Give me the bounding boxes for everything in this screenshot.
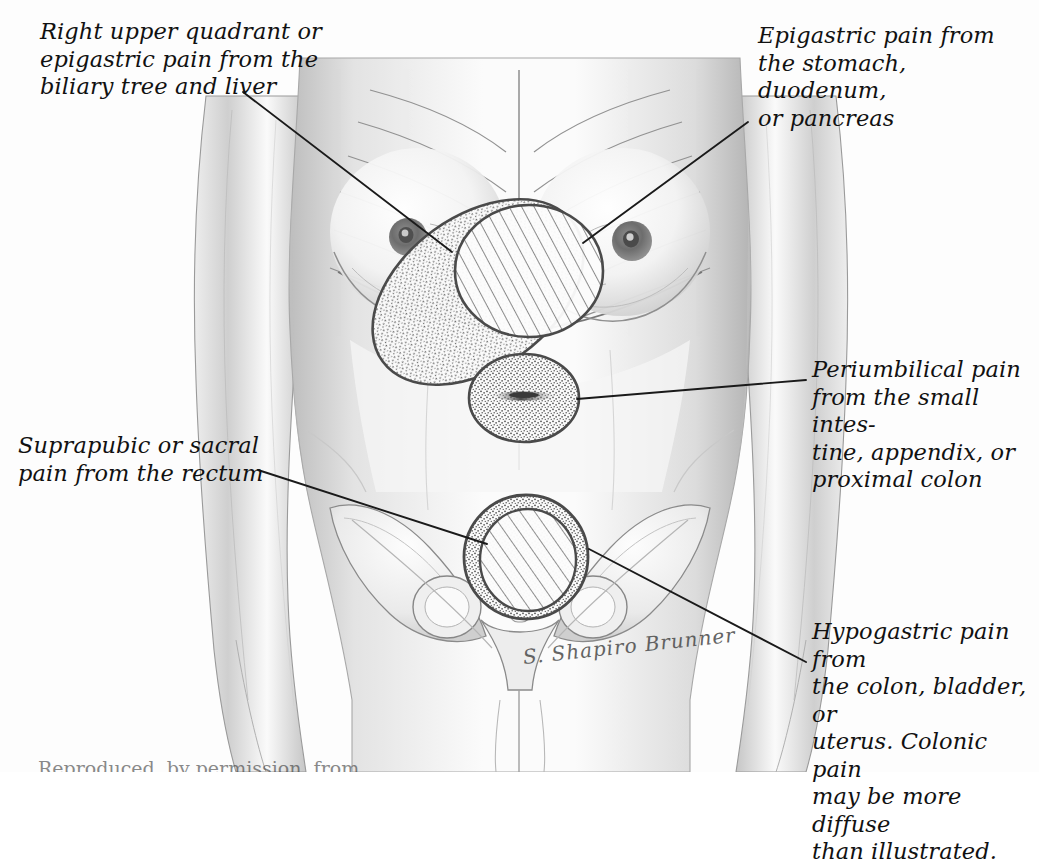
stippled-circle-periumbilical[interactable] <box>469 354 579 442</box>
callout-suprapubic: Suprapubic or sacral pain from the rectu… <box>18 432 286 487</box>
callout-right-upper-quadrant: Right upper quadrant or epigastric pain … <box>40 18 330 101</box>
callout-hypogastric: Hypogastric pain from the colon, bladder… <box>812 618 1038 863</box>
hatched-circle-epigastric[interactable] <box>455 205 603 337</box>
callout-epigastric: Epigastric pain from the stomach, duoden… <box>758 22 1030 132</box>
bottom-caption: Reproduced, by permission, from... <box>38 757 678 772</box>
callout-periumbilical: Periumbilical pain from the small intes-… <box>812 356 1038 494</box>
hatched-circle-hypogastric[interactable] <box>480 509 576 611</box>
